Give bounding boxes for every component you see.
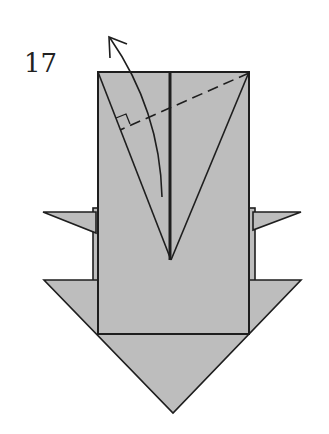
- right-flap: [253, 212, 301, 230]
- main-panel: [98, 72, 249, 334]
- step-number: 17: [24, 48, 57, 78]
- left-flap: [43, 212, 96, 233]
- origami-diagram: 17: [0, 0, 329, 434]
